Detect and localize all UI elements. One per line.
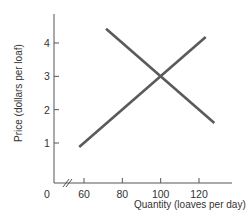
y-tick-label: 4 — [44, 37, 50, 49]
y-tick-label: 3 — [44, 70, 50, 82]
y-ticks: 1234 — [44, 37, 59, 149]
x-tick-label: 80 — [116, 188, 128, 200]
supply-curve — [79, 37, 205, 147]
x-tick-label: 60 — [78, 188, 90, 200]
y-axis-title: Price (dollars per loaf) — [13, 44, 24, 142]
y-tick-label: 1 — [44, 137, 50, 149]
supply-demand-chart: 1234 6080100120 0 Price (dollars per loa… — [0, 0, 246, 218]
y-tick-label: 2 — [44, 104, 50, 116]
series-lines — [79, 29, 214, 147]
x-axis-title: Quantity (loaves per day) — [134, 199, 246, 210]
origin-label: 0 — [44, 188, 50, 200]
x-ticks: 6080100120 — [78, 178, 208, 200]
